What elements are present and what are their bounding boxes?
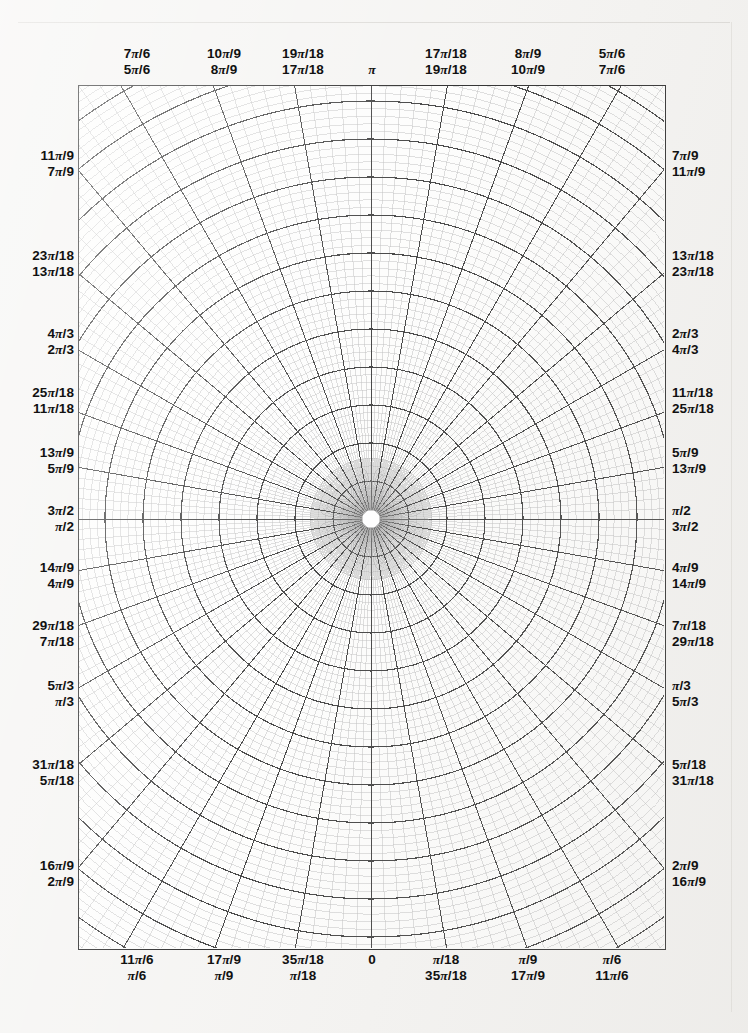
angle-label-bottom-0: 11π/6π/6: [120, 952, 153, 983]
angle-label-upper: 5π/18: [672, 757, 714, 773]
angle-label-right-9: 5π/1831π/18: [672, 757, 714, 788]
angle-label-lower: 17π/9: [511, 968, 545, 984]
angle-label-lower: 8π/9: [207, 62, 241, 78]
angle-label-top-5: 8π/910π/9: [511, 46, 545, 77]
angle-label-upper: π/18: [425, 952, 467, 968]
angle-label-bottom-1: 17π/9π/9: [207, 952, 241, 983]
angle-label-upper: 25π/18: [32, 385, 74, 401]
angle-label-upper: 11π/6: [120, 952, 153, 968]
angle-label-lower: 4π/3: [672, 341, 699, 357]
angle-label-upper: 17π/18: [425, 46, 467, 62]
angle-label-upper: 19π/18: [282, 46, 324, 62]
angle-label-left-4: 13π/95π/9: [40, 445, 74, 476]
angle-label-left-2: 4π/32π/3: [47, 326, 74, 357]
angle-label-lower: 5π/3: [672, 693, 699, 709]
angle-label-lower: 2π/9: [40, 873, 74, 889]
angle-label-lower: π/3: [47, 693, 74, 709]
angle-label-left-1: 23π/1813π/18: [32, 248, 74, 279]
angle-label-top-4: 17π/1819π/18: [425, 46, 467, 77]
angle-label-upper: 11π/9: [41, 148, 74, 164]
angle-label-upper: 5π/6: [599, 46, 626, 62]
angle-label-left-7: 29π/187π/18: [32, 618, 74, 649]
angle-label-left-10: 16π/92π/9: [40, 858, 74, 889]
angle-label-right-2: 2π/34π/3: [672, 326, 699, 357]
page-edge-line-top: [18, 22, 730, 23]
page-edge-line-right: [731, 22, 732, 1012]
angle-label-bottom-4: π/1835π/18: [425, 952, 467, 983]
angle-label-lower: π/6: [120, 968, 153, 984]
paper-page: 7π/65π/610π/98π/919π/1817π/18π17π/1819π/…: [0, 0, 748, 1033]
angle-label-lower: 10π/9: [511, 62, 545, 78]
angle-label-right-7: 7π/1829π/18: [672, 618, 714, 649]
angle-label-lower: 5π/6: [124, 62, 151, 78]
angle-label-bottom-6: π/611π/6: [595, 952, 628, 983]
angle-label-upper: π/6: [595, 952, 628, 968]
angle-label-lower: 11π/6: [595, 968, 628, 984]
angle-label-upper: 29π/18: [32, 618, 74, 634]
angle-label-lower: 35π/18: [425, 968, 467, 984]
angle-label-lower: 13π/9: [672, 460, 706, 476]
angle-label-upper: 17π/9: [207, 952, 241, 968]
angle-label-right-4: 5π/913π/9: [672, 445, 706, 476]
angle-label-lower: 7π/6: [599, 62, 626, 78]
angle-label-upper: 4π/3: [47, 326, 74, 342]
angle-label-lower: π/2: [47, 518, 74, 534]
angle-label-right-1: 13π/1823π/18: [672, 248, 714, 279]
angle-label-upper: 4π/9: [672, 560, 706, 576]
angle-label-upper: 23π/18: [32, 248, 74, 264]
angle-label-lower: 31π/18: [672, 772, 714, 788]
angle-label-upper: 7π/9: [672, 148, 705, 164]
angle-label-left-3: 25π/1811π/18: [32, 385, 74, 416]
angle-label-top-6: 5π/67π/6: [599, 46, 626, 77]
angle-label-lower: 11π/9: [672, 163, 705, 179]
angle-label-upper: 13π/9: [40, 445, 74, 461]
angle-label-upper: 7π/6: [124, 46, 151, 62]
angle-label-upper: 0: [368, 952, 376, 968]
angle-label-bottom-3: 0: [368, 952, 376, 968]
polar-grid-svg: [79, 86, 664, 948]
angle-label-lower: 25π/18: [672, 400, 714, 416]
angle-label-top-0: 7π/65π/6: [124, 46, 151, 77]
angle-label-left-9: 31π/185π/18: [32, 757, 74, 788]
angle-label-upper: 11π/18: [672, 385, 714, 401]
angle-label-lower: 2π/3: [47, 341, 74, 357]
angle-label-lower: π: [368, 62, 375, 78]
angle-label-lower: 17π/18: [282, 62, 324, 78]
angle-label-upper: 35π/18: [282, 952, 324, 968]
angle-label-upper: 14π/9: [40, 560, 74, 576]
angle-label-upper: 7π/18: [672, 618, 714, 634]
angle-label-upper: 3π/2: [47, 503, 74, 519]
angle-label-bottom-2: 35π/18π/18: [282, 952, 324, 983]
angle-label-lower: 23π/18: [672, 263, 714, 279]
angle-label-upper: 5π/3: [47, 678, 74, 694]
angle-label-right-5: π/23π/2: [672, 503, 699, 534]
angle-label-lower: 16π/9: [672, 873, 706, 889]
angle-label-lower: 19π/18: [425, 62, 467, 78]
angle-label-upper: 31π/18: [32, 757, 74, 773]
angle-label-lower: 3π/2: [672, 518, 699, 534]
angle-label-lower: π/18: [282, 968, 324, 984]
angle-label-right-0: 7π/911π/9: [672, 148, 705, 179]
angle-label-lower: 5π/9: [40, 460, 74, 476]
angle-label-upper: 2π/9: [672, 858, 706, 874]
angle-label-right-8: π/35π/3: [672, 678, 699, 709]
angle-label-upper: 8π/9: [511, 46, 545, 62]
angle-label-right-10: 2π/916π/9: [672, 858, 706, 889]
angle-label-lower: 13π/18: [32, 263, 74, 279]
angle-label-left-5: 3π/2π/2: [47, 503, 74, 534]
angle-label-upper: π/3: [672, 678, 699, 694]
angle-label-lower: 14π/9: [672, 575, 706, 591]
angle-label-upper: π/2: [672, 503, 699, 519]
angle-label-left-0: 11π/97π/9: [41, 148, 74, 179]
angle-label-lower: 7π/9: [41, 163, 74, 179]
angle-label-upper: 2π/3: [672, 326, 699, 342]
angle-label-left-6: 14π/94π/9: [40, 560, 74, 591]
angle-label-upper: 13π/18: [672, 248, 714, 264]
angle-label-top-3: π: [368, 62, 375, 78]
angle-label-upper: 16π/9: [40, 858, 74, 874]
angle-label-lower: 4π/9: [40, 575, 74, 591]
angle-label-lower: 5π/18: [32, 772, 74, 788]
angle-label-upper: π/9: [511, 952, 545, 968]
angle-label-lower: 11π/18: [32, 400, 74, 416]
angle-label-left-8: 5π/3π/3: [47, 678, 74, 709]
